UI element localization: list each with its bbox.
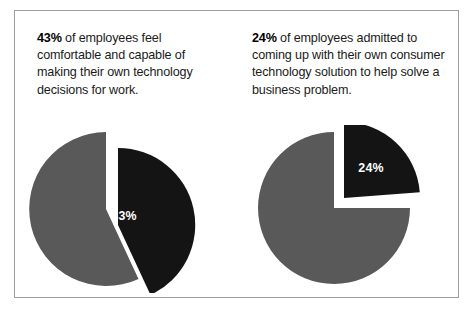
caption-right-lead: 24% — [252, 31, 277, 45]
pie-chart-right: 24% — [237, 119, 460, 297]
pie-left-svg: 43% — [29, 125, 219, 293]
caption-right-rest: of employees admitted to coming up with … — [252, 31, 444, 97]
pie-left-slice-label: 43% — [111, 209, 136, 223]
stat-panel-left: 43% of employees feel comfortable and ca… — [15, 11, 237, 297]
caption-left-lead: 43% — [37, 31, 62, 45]
figure-canvas: 43% of employees feel comfortable and ca… — [0, 0, 475, 313]
pie-right-svg: 24% — [258, 125, 438, 293]
figure-frame: 43% of employees feel comfortable and ca… — [14, 10, 459, 298]
caption-left: 43% of employees feel comfortable and ca… — [37, 30, 227, 99]
caption-right: 24% of employees admitted to coming up w… — [252, 30, 457, 99]
stat-panel-right: 24% of employees admitted to coming up w… — [237, 11, 460, 297]
pie-right-slice-label: 24% — [358, 161, 383, 175]
pie-chart-left: 43% — [15, 119, 237, 297]
